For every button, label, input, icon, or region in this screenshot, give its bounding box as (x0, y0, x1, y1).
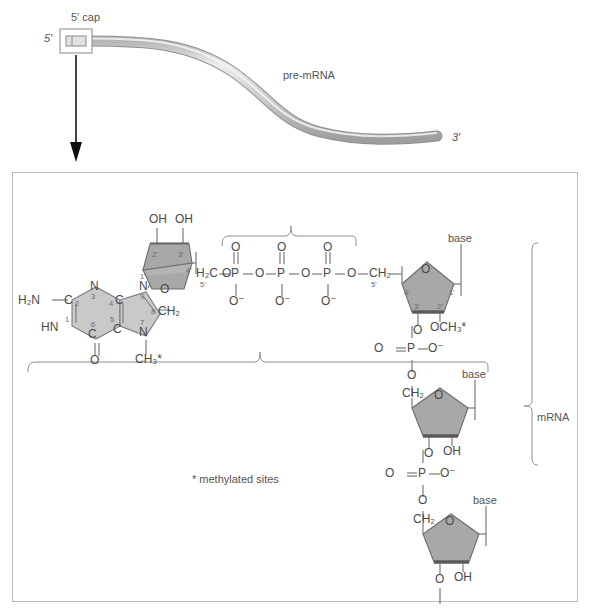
n3-base-label: base (473, 494, 497, 506)
mrna-bracket (524, 243, 538, 465)
pd2-anionic-o: O⁻ (440, 466, 456, 480)
n9-label: N (139, 279, 148, 293)
n2-ring-oxygen-label: O (434, 388, 443, 402)
pd1-phosphorus: P (407, 341, 415, 355)
n1-c2-prime-label: 2' (437, 302, 443, 311)
p-gamma-anionic-o: O⁻ (321, 294, 337, 308)
position-9-number: 9 (140, 292, 144, 301)
n1-c1-prime-label: 1' (449, 288, 455, 297)
p-alpha-anionic-o: O⁻ (229, 294, 245, 308)
cap-c3-prime-label: 3' (178, 250, 184, 259)
n3-2prime-oh-label: OH (454, 570, 472, 584)
pd1-anionic-o: O⁻ (428, 341, 444, 355)
position-1-number: 1 (65, 315, 69, 324)
n1-2prime-methoxy-label: OCH₃* (430, 320, 466, 334)
n2-3prime-oxygen-label: O (424, 446, 433, 460)
position-4-number: 4 (109, 299, 113, 308)
position-2-number: 2 (75, 299, 79, 308)
n1-base-label: base (448, 232, 472, 244)
p-beta-anionic-o: O⁻ (275, 294, 291, 308)
o6-carbonyl-label: O (90, 353, 99, 367)
n2-2prime-oh-label: OH (443, 444, 461, 458)
c5-label: C (113, 322, 122, 336)
p-gamma-double-o: O (323, 240, 332, 254)
n3-ring-oxygen-label: O (445, 514, 454, 528)
n2-c5-label: CH₂ (402, 386, 424, 400)
n1-c3-prime-label: 3' (414, 302, 420, 311)
c6-label: C (88, 327, 97, 341)
n2-base-label: base (462, 368, 486, 380)
mrna-bracket-label: mRNA (537, 411, 569, 423)
position-8-number: 8 (151, 307, 155, 316)
n1-c5-prime-label: 5' (371, 280, 377, 289)
p-alpha-double-o: O (231, 240, 240, 254)
methylation-footnote: * methylated sites (192, 473, 279, 485)
phosphorus-gamma: P (323, 266, 331, 280)
phosphorus-alpha: P (231, 266, 239, 280)
bridge-oxygen-2: O (255, 266, 264, 280)
cap-2prime-oh-label: OH (149, 212, 167, 226)
pd2-double-o: O (385, 466, 394, 480)
p-beta-double-o: O (277, 240, 286, 254)
n3-c5-label: CH₂ (413, 512, 435, 526)
c4-label: C (115, 293, 124, 307)
n7-label: N (139, 325, 148, 339)
chemistry-svg (0, 0, 593, 614)
n7-methyl-label: CH₃* (135, 352, 162, 366)
cap-c5-label: H₂C (196, 266, 218, 280)
cap-c1-prime-label: 1' (140, 272, 146, 281)
n1-label: HN (41, 320, 58, 334)
pd2-bridge-o: O (418, 493, 427, 507)
cap-ring-oxygen-label: O (160, 282, 169, 296)
bridge-oxygen-3: O (301, 266, 310, 280)
pd1-double-o: O (374, 341, 383, 355)
n3-3prime-oxygen-label: O (435, 572, 444, 586)
cap-c2-prime-label: 2' (152, 250, 158, 259)
cap-3prime-oh-label: OH (175, 212, 193, 226)
bridge-oxygen-1: O (222, 266, 231, 280)
cap-c5-prime-label: 5' (200, 280, 206, 289)
n1-ring-oxygen-label: O (421, 262, 430, 276)
amino-group-label: H₂N (18, 293, 40, 307)
position-3-number: 3 (91, 292, 95, 301)
structure-layer: H₂N C 2 N 3 C 4 HN 1 6 C 5 C N 9 8 CH₂ 7… (0, 0, 593, 614)
pd1-bridge-o: O (407, 368, 416, 382)
cap-c4-prime-label: 4' (186, 266, 192, 275)
n1-c5-label: CH₂ (369, 266, 391, 280)
phosphorus-beta: P (277, 266, 285, 280)
n1-3prime-oxygen-label: O (413, 323, 422, 337)
n3-label: N (90, 279, 99, 293)
c2-label: C (64, 293, 73, 307)
bridge-oxygen-4: O (347, 266, 356, 280)
pd2-phosphorus: P (418, 466, 426, 480)
triphosphate-brace (222, 226, 356, 246)
n1-c4-prime-label: 4' (404, 288, 410, 297)
c8-methylene-label: CH₂ (158, 304, 180, 318)
